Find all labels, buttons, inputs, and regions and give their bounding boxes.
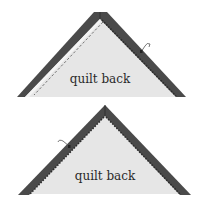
quilt-back-label: quilt back bbox=[75, 169, 136, 183]
panel-top: quilt back bbox=[17, 12, 186, 97]
quilt-binding-diagram: quilt back quilt back bbox=[0, 0, 200, 205]
quilt-back-label: quilt back bbox=[70, 72, 131, 86]
panel-bottom: quilt back bbox=[18, 105, 191, 195]
needle-mark bbox=[140, 50, 143, 53]
needle-mark bbox=[68, 145, 71, 148]
thread-hook-icon bbox=[58, 140, 69, 146]
